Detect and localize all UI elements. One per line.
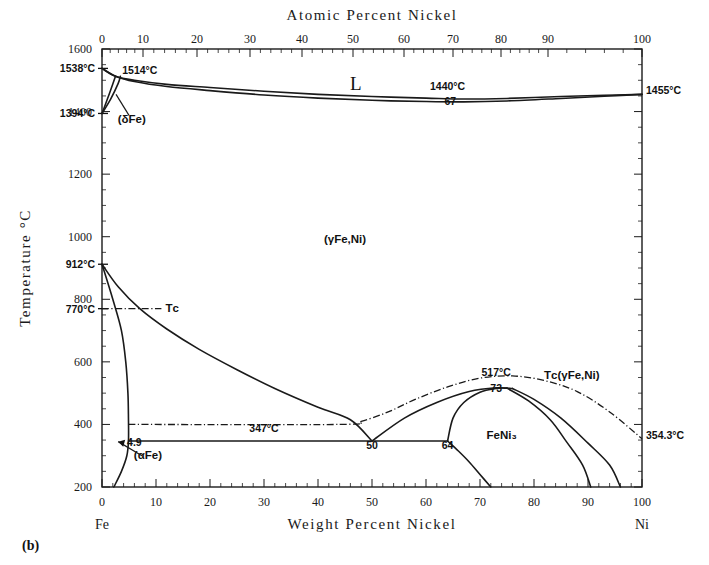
- phase-label: FeNi₃: [486, 429, 516, 441]
- x-tick-label-bottom: 60: [420, 495, 432, 509]
- y-tick-label: 1000: [68, 230, 92, 244]
- curve-gamma-alpha-solvus-upper: [102, 264, 372, 441]
- bottom-axis-title: Weight Percent Nickel: [287, 516, 456, 532]
- curve-liquidus: [102, 68, 642, 99]
- phase-label: Tᴄ(γFe,Ni): [544, 369, 600, 381]
- x-tick-label-bottom: 50: [366, 495, 378, 509]
- annotation: 517°C: [482, 366, 512, 378]
- x-tick-label-top: 80: [495, 32, 507, 46]
- y-tick-label: 200: [74, 480, 92, 494]
- x-tick-label-bottom: 0: [99, 495, 105, 509]
- annotation: 354.3°C: [646, 429, 684, 441]
- x-tick-label-bottom: 30: [258, 495, 270, 509]
- curve-delta-gamma-boundary: [102, 76, 120, 113]
- curve-alpha-gamma-boundary-left: [102, 264, 129, 487]
- annotation: 1514°C: [122, 64, 158, 76]
- special-y-tick-label: 1394°C: [60, 107, 96, 119]
- y-tick-label: 400: [74, 417, 92, 431]
- x-tick-label-top: 10: [137, 32, 149, 46]
- phase-label: (δFe): [118, 113, 146, 125]
- x-tick-label-top: 40: [296, 32, 308, 46]
- x-tick-label-bottom: 90: [582, 495, 594, 509]
- x-tick-label-top: 90: [542, 32, 554, 46]
- phase-label: L: [350, 73, 362, 94]
- annotation: 67: [444, 95, 456, 107]
- x-tick-label-top: 30: [244, 32, 256, 46]
- x-tick-label-bottom: 40: [312, 495, 324, 509]
- phase-diagram-figure: 0102030405060708090100010203040506070809…: [0, 0, 709, 565]
- phase-label: Tᴄ: [165, 302, 179, 314]
- annotation: 1455°C: [646, 84, 682, 96]
- annotation: 4.9: [127, 436, 142, 448]
- x-tick-label-top: 60: [398, 32, 410, 46]
- annotation: 64: [442, 439, 454, 451]
- annotation: 50: [366, 439, 378, 451]
- special-y-tick-label: 912°C: [66, 258, 96, 270]
- left-end-label: Fe: [95, 517, 109, 532]
- phase-label: (αFe): [134, 449, 162, 461]
- x-tick-label-top: 70: [447, 32, 459, 46]
- x-tick-label-top: 20: [191, 32, 203, 46]
- fe-ni-phase-diagram-svg: 0102030405060708090100010203040506070809…: [0, 0, 709, 565]
- figure-caption: (b): [22, 538, 39, 554]
- y-tick-label: 1600: [68, 42, 92, 56]
- annotation: 1440°C: [430, 80, 466, 92]
- x-tick-label-top: 100: [633, 32, 651, 46]
- phase-label: (γFe,Ni): [324, 233, 366, 245]
- curve-Tc-400-line: [128, 376, 642, 439]
- top-axis-title: Atomic Percent Nickel: [286, 7, 457, 23]
- plot-frame: [102, 49, 642, 487]
- y-tick-label: 600: [74, 355, 92, 369]
- curve-FeNi3-right-outer: [512, 388, 620, 487]
- x-tick-label-top: 0: [99, 32, 105, 46]
- curve-FeNi3-lower-left: [448, 441, 491, 487]
- special-y-tick-label: 1538°C: [60, 62, 96, 74]
- curve-FeNi3-right-inner: [507, 388, 591, 487]
- annotation: 73: [490, 382, 502, 394]
- x-tick-label-top: 50: [347, 32, 359, 46]
- special-y-tick-label: 770°C: [66, 303, 96, 315]
- x-tick-label-bottom: 80: [528, 495, 540, 509]
- x-tick-label-bottom: 10: [150, 495, 162, 509]
- y-tick-label: 1200: [68, 167, 92, 181]
- x-tick-label-bottom: 20: [204, 495, 216, 509]
- left-axis-title: Temperature °C: [17, 209, 33, 327]
- right-end-label: Ni: [635, 517, 649, 532]
- x-tick-label-bottom: 100: [633, 495, 651, 509]
- annotation: 347°C: [249, 422, 279, 434]
- x-tick-label-bottom: 70: [474, 495, 486, 509]
